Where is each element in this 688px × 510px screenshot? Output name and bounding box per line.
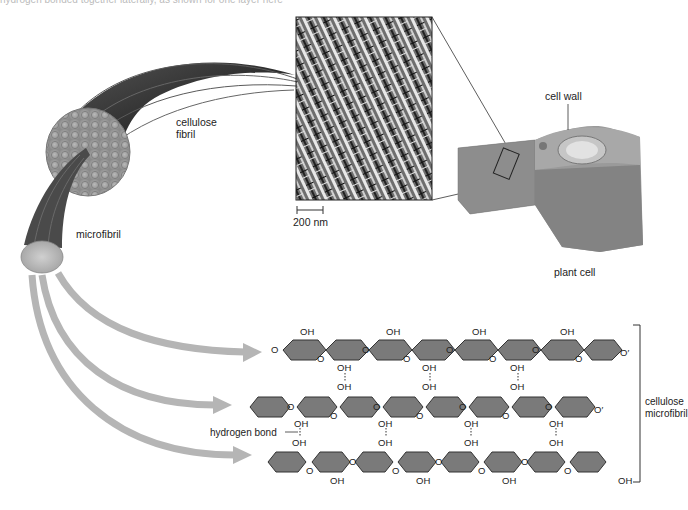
- oh-label: OH: [386, 326, 400, 338]
- oh-label: OH: [502, 475, 516, 487]
- o-label: O: [545, 401, 552, 413]
- oh-label: OH: [294, 418, 308, 430]
- oh-label: OH: [422, 381, 436, 393]
- oh-label: OH: [510, 362, 524, 374]
- o-label: O: [502, 410, 509, 422]
- cellulose-chains: [250, 325, 640, 482]
- o-label: O: [373, 401, 380, 413]
- oh-label: OH: [330, 475, 344, 487]
- scale-bar-icon: [297, 206, 323, 214]
- oh-label: OH: [300, 326, 314, 338]
- oh-label: OH: [292, 437, 306, 449]
- o-label: O: [478, 465, 485, 477]
- o-label: O: [306, 465, 313, 477]
- oh-label: OH: [378, 437, 392, 449]
- label-cell-wall: cell wall: [545, 90, 582, 102]
- o-label: O: [446, 344, 453, 356]
- oh-label: OH: [464, 418, 478, 430]
- oh-label: OH: [549, 418, 563, 430]
- label-microfibril: microfibril: [76, 228, 121, 240]
- o-end-label: O: [271, 344, 278, 356]
- o-label: O: [362, 344, 369, 356]
- o-label: O: [403, 353, 410, 365]
- label-cellulose-microfibril-line1: cellulose: [645, 396, 688, 408]
- oh-label: OH: [472, 326, 486, 338]
- label-cellulose-fibril: cellulose fibril: [176, 116, 217, 140]
- oh-label: OH: [416, 475, 430, 487]
- o-label: O: [287, 401, 294, 413]
- afm-micrograph: [296, 17, 432, 200]
- cellulose-fibril-illustration: [46, 62, 300, 196]
- oh-label: OH: [549, 437, 563, 449]
- o-label: O: [564, 465, 571, 477]
- o-label: O: [349, 456, 356, 468]
- o-label: O: [330, 410, 337, 422]
- oh-label: OH: [337, 381, 351, 393]
- o-label: O: [416, 410, 423, 422]
- label-plant-cell: plant cell: [554, 266, 595, 278]
- o-label: O: [392, 465, 399, 477]
- oh-label: OH: [464, 437, 478, 449]
- label-hydrogen-bond: hydrogen bond: [210, 427, 277, 439]
- label-cellulose-fibril-line2: fibril: [176, 128, 217, 140]
- label-cellulose-microfibril: cellulose microfibril: [645, 396, 688, 420]
- label-scale-bar: 200 nm: [293, 216, 328, 228]
- oh-label: OH: [422, 362, 436, 374]
- o-label: O: [459, 401, 466, 413]
- label-cellulose-fibril-line1: cellulose: [176, 116, 217, 128]
- o-end-label: O′: [620, 347, 629, 359]
- oh-label: OH: [378, 418, 392, 430]
- o-label: O: [435, 456, 442, 468]
- oh-label: OH: [337, 362, 351, 374]
- o-label: O: [317, 353, 324, 365]
- o-label: O: [575, 353, 582, 365]
- oh-label: OH: [560, 326, 574, 338]
- o-label: O: [489, 353, 496, 365]
- oh-label: OH: [510, 381, 524, 393]
- oh-end-label: OH: [618, 475, 632, 487]
- o-label: O: [532, 344, 539, 356]
- label-cellulose-microfibril-line2: microfibril: [645, 408, 688, 420]
- o-label: O: [521, 456, 528, 468]
- plant-cell-illustration: [458, 104, 643, 252]
- o-end-label: O′: [594, 404, 603, 416]
